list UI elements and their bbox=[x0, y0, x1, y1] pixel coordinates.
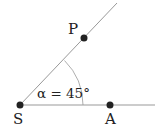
angle-label: α = 45° bbox=[37, 85, 90, 101]
point-p bbox=[81, 35, 88, 42]
label-s: S bbox=[13, 110, 23, 128]
label-a: A bbox=[104, 110, 116, 128]
point-s bbox=[17, 102, 24, 109]
point-a bbox=[107, 102, 114, 109]
angle-diagram: S A P α = 45° bbox=[0, 0, 162, 131]
label-p: P bbox=[68, 20, 78, 38]
